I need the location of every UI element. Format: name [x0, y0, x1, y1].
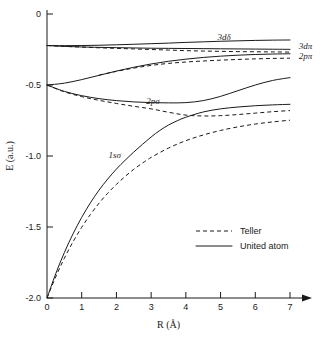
y-tick-3: -1.5: [25, 222, 53, 232]
x-tick-label: 7: [287, 302, 292, 312]
y-tick-label: -1.0: [25, 151, 41, 161]
y-tick-2: -1.0: [25, 151, 53, 161]
x-tick-label: 2: [114, 302, 119, 312]
y-tick-label: -0.5: [25, 80, 41, 90]
y-tick-0: 0: [36, 9, 53, 19]
series-curve-0: [47, 40, 290, 46]
y-axis-ticks: 0-0.5-1.0-1.5-2.0: [25, 9, 53, 303]
x-tick-label: 3: [149, 302, 154, 312]
curve-label-0: 3dδ: [216, 32, 231, 42]
legend-label: United atom: [240, 241, 289, 251]
x-tick-label: 1: [79, 302, 84, 312]
legend-item-1: United atom: [196, 241, 289, 251]
curve-label-3: 2pσ: [146, 96, 160, 106]
y-axis-title: E (a.u.): [4, 141, 16, 171]
chart-legend: TellerUnited atom: [196, 226, 289, 251]
x-tick-label: 0: [44, 302, 49, 312]
x-tick-2: 2: [114, 292, 119, 312]
y-tick-label: 0: [36, 9, 41, 19]
x-tick-3: 3: [149, 292, 154, 312]
curve-label-1: 3dπ: [298, 41, 313, 51]
curve-label-4: 1sσ: [108, 150, 121, 160]
chart-series-layer: [47, 40, 290, 298]
y-tick-label: -2.0: [25, 293, 41, 303]
x-tick-label: 5: [218, 302, 223, 312]
x-tick-7: 7: [287, 292, 292, 312]
series-curve-7: [47, 104, 290, 298]
x-axis-arrow-icon: [302, 295, 312, 302]
legend-item-0: Teller: [196, 226, 262, 236]
legend-label: Teller: [240, 226, 262, 236]
x-axis-ticks: 01234567: [44, 292, 292, 312]
series-curve-6: [47, 85, 290, 116]
x-tick-6: 6: [253, 292, 258, 312]
series-curve-4: [99, 58, 290, 75]
x-tick-4: 4: [183, 292, 188, 312]
x-tick-label: 4: [183, 302, 188, 312]
x-tick-label: 6: [253, 302, 258, 312]
chart-figure: 0-0.5-1.0-1.5-2.0 01234567 3dδ3dπ2pπ2pσ1…: [0, 0, 325, 340]
series-curve-5: [47, 78, 290, 103]
x-tick-0: 0: [44, 302, 49, 312]
x-tick-1: 1: [79, 292, 84, 312]
x-tick-5: 5: [218, 292, 223, 312]
x-axis-title: R (Å): [157, 319, 180, 331]
energy-correlation-chart: 0-0.5-1.0-1.5-2.0 01234567 3dδ3dπ2pπ2pσ1…: [0, 0, 325, 340]
curve-label-2: 2pπ: [299, 51, 313, 61]
y-tick-label: -1.5: [25, 222, 41, 232]
series-curve-8: [47, 120, 290, 298]
